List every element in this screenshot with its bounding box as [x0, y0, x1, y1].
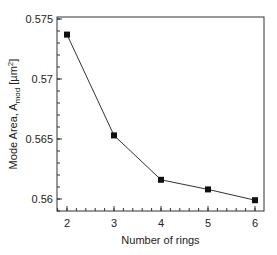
- x-tick-label: 4: [158, 217, 164, 229]
- data-point-marker: [158, 177, 164, 183]
- x-tick-label: 6: [252, 217, 258, 229]
- x-tick-label: 3: [111, 217, 117, 229]
- y-tick-label: 0.565: [25, 133, 53, 145]
- chart-container: 0.560.5650.570.57523456Number of ringsMo…: [0, 0, 277, 255]
- data-point-marker: [64, 32, 70, 38]
- x-axis-label: Number of rings: [121, 234, 200, 246]
- data-line: [67, 35, 255, 201]
- y-tick-label: 0.57: [32, 73, 53, 85]
- x-tick-label: 2: [64, 217, 70, 229]
- x-tick-label: 5: [205, 217, 211, 229]
- y-axis-label: Mode Area, Amod [µm2]: [6, 59, 22, 170]
- data-point-marker: [205, 186, 211, 192]
- y-tick-label: 0.575: [25, 13, 53, 25]
- data-point-marker: [111, 132, 117, 138]
- line-chart: 0.560.5650.570.57523456Number of ringsMo…: [0, 0, 277, 255]
- data-point-marker: [252, 197, 258, 203]
- y-tick-label: 0.56: [32, 193, 53, 205]
